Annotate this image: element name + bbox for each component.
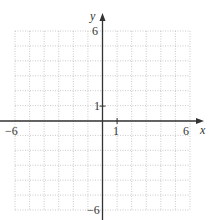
grid-svg <box>0 0 215 220</box>
y-axis-label: y <box>90 10 95 22</box>
y-min-label: −6 <box>87 204 100 216</box>
y-axis-arrow-icon <box>100 13 106 21</box>
x-max-label: 6 <box>183 125 189 137</box>
x-min-label: −6 <box>5 125 18 137</box>
x-unit-label: 1 <box>113 125 119 137</box>
coordinate-plane: y 6 1 −6 1 6 x −6 <box>0 0 215 220</box>
x-axis-label: x <box>200 124 205 136</box>
y-max-label: 6 <box>92 25 98 37</box>
y-unit-label: 1 <box>94 100 100 112</box>
